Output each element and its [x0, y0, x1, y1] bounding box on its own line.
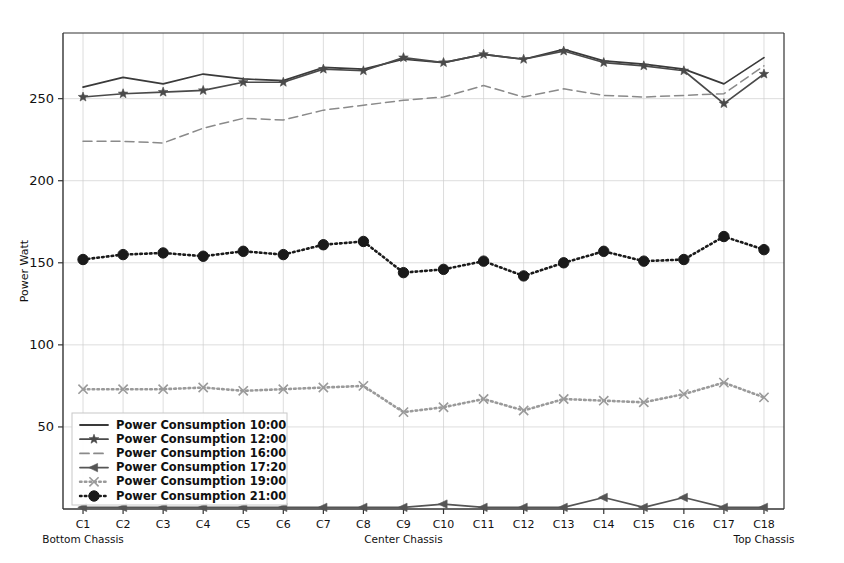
x-tick-label: C13 — [553, 518, 575, 531]
x-tick-label: C17 — [713, 518, 735, 531]
y-tick-label: 150 — [29, 255, 54, 270]
x-tick-label: C12 — [513, 518, 535, 531]
y-tick-label: 250 — [29, 91, 54, 106]
data-point-marker — [398, 267, 408, 277]
x-tick-label: C7 — [316, 518, 331, 531]
data-point-marker — [358, 236, 368, 246]
legend-label: Power Consumption 16:00 — [116, 446, 286, 460]
data-point-marker — [278, 249, 288, 259]
x-tick-label: C4 — [196, 518, 211, 531]
y-tick-label: 100 — [29, 337, 54, 352]
data-point-marker — [639, 256, 649, 266]
x-tick-label: C5 — [236, 518, 251, 531]
x-group-label: Center Chassis — [364, 533, 442, 545]
x-tick-label: C10 — [433, 518, 455, 531]
x-tick-label: C2 — [116, 518, 131, 531]
y-axis-ticks: 50100150200250 — [29, 91, 63, 434]
legend-label: Power Consumption 12:00 — [116, 432, 286, 446]
data-point-marker — [679, 254, 689, 264]
data-point-marker — [89, 491, 99, 501]
x-tick-label: C11 — [473, 518, 495, 531]
data-point-marker — [478, 256, 488, 266]
x-group-label: Bottom Chassis — [42, 533, 124, 545]
data-point-marker — [158, 248, 168, 258]
chart-legend: Power Consumption 10:00Power Consumption… — [72, 413, 287, 505]
data-point-marker — [719, 231, 729, 241]
data-point-marker — [438, 264, 448, 274]
data-point-marker — [318, 240, 328, 250]
power-consumption-line-chart: 50100150200250Power WattC1C2C3C4C5C6C7C8… — [0, 0, 844, 563]
data-point-marker — [198, 251, 208, 261]
x-tick-label: C14 — [593, 518, 615, 531]
x-tick-label: C16 — [673, 518, 695, 531]
data-point-marker — [599, 246, 609, 256]
y-tick-label: 50 — [37, 419, 54, 434]
chart-figure: 50100150200250Power WattC1C2C3C4C5C6C7C8… — [0, 0, 844, 563]
x-tick-label: C15 — [633, 518, 655, 531]
x-tick-label: C1 — [76, 518, 91, 531]
x-group-labels: Bottom ChassisCenter ChassisTop Chassis — [42, 533, 794, 545]
legend-label: Power Consumption 19:00 — [116, 474, 286, 488]
data-point-marker — [118, 249, 128, 259]
data-point-marker — [238, 246, 248, 256]
y-tick-label: 200 — [29, 173, 54, 188]
x-tick-label: C9 — [396, 518, 411, 531]
x-tick-label: C6 — [276, 518, 291, 531]
data-point-marker — [558, 258, 568, 268]
x-tick-label: C3 — [156, 518, 171, 531]
x-group-label: Top Chassis — [733, 533, 795, 545]
legend-label: Power Consumption 17:20 — [116, 460, 286, 474]
data-point-marker — [759, 244, 769, 254]
x-tick-label: C18 — [753, 518, 775, 531]
x-axis-ticks: C1C2C3C4C5C6C7C8C9C10C11C12C13C14C15C16C… — [76, 509, 775, 531]
legend-label: Power Consumption 21:00 — [116, 489, 286, 503]
data-point-marker — [78, 254, 88, 264]
x-tick-label: C8 — [356, 518, 371, 531]
legend-label: Power Consumption 10:00 — [116, 418, 286, 432]
y-axis-title: Power Watt — [18, 239, 31, 302]
data-point-marker — [518, 271, 528, 281]
